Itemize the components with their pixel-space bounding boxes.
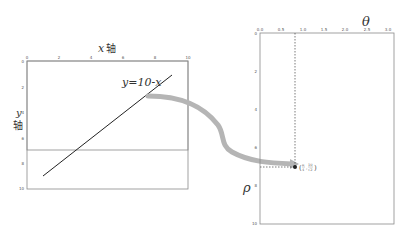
left-y-tick: 4 bbox=[21, 110, 24, 115]
left-y-tick: 10 bbox=[19, 186, 25, 191]
right-x-ticks: 0.0 0.5 1.0 1.5 2.0 2.5 3.0 bbox=[257, 27, 392, 32]
left-y-tick: 2 bbox=[21, 85, 24, 90]
point-label-rho-den: √2 bbox=[308, 168, 312, 172]
left-y-axis-var: y bbox=[15, 107, 22, 118]
right-y-ticks: 0 2 4 6 8 10 bbox=[252, 31, 258, 226]
left-y-tick: 8 bbox=[21, 161, 24, 166]
right-y-tick: 10 bbox=[252, 221, 258, 226]
right-x-tick: 2.0 bbox=[342, 27, 349, 32]
right-y-tick: 2 bbox=[254, 69, 257, 74]
right-x-tick: 3.0 bbox=[385, 27, 392, 32]
left-x-axis-cjk: 轴 bbox=[106, 42, 116, 54]
left-x-tick: 8 bbox=[154, 55, 157, 60]
left-x-tick: 4 bbox=[90, 55, 93, 60]
right-x-tick: 1.5 bbox=[321, 27, 328, 32]
right-x-tick: 1.0 bbox=[300, 27, 307, 32]
rho-axis-label: ρ bbox=[242, 180, 251, 195]
left-x-ticks: 0 2 4 6 8 10 bbox=[26, 55, 191, 60]
right-y-tick: 4 bbox=[254, 107, 257, 112]
left-x-tick: 2 bbox=[58, 55, 61, 60]
point-label-close-paren: ) bbox=[314, 164, 317, 172]
theta-axis-label: θ bbox=[362, 14, 370, 29]
left-x-tick: 6 bbox=[122, 55, 125, 60]
right-x-tick: 0.5 bbox=[278, 27, 285, 32]
right-plot: 0.0 0.5 1.0 1.5 2.0 2.5 3.0 0 2 4 6 8 10… bbox=[242, 14, 394, 226]
right-y-tick: 6 bbox=[254, 145, 257, 150]
left-x-tick: 10 bbox=[185, 55, 191, 60]
left-x-axis-var: x bbox=[98, 42, 105, 55]
left-y-tick: 6 bbox=[21, 136, 24, 141]
right-plot-frame bbox=[260, 33, 394, 224]
left-x-tick: 0 bbox=[26, 55, 29, 60]
point-label: ( π 4 , 10 √2 ) bbox=[299, 163, 317, 172]
point-label-theta-den: 4 bbox=[302, 168, 305, 172]
right-x-tick: 0.0 bbox=[257, 27, 264, 32]
left-y-axis-cjk: 轴 bbox=[13, 119, 23, 131]
mapped-point bbox=[293, 165, 297, 169]
left-y-tick: 0 bbox=[21, 59, 24, 64]
hough-transform-diagram: 0 2 4 6 8 10 0 2 4 6 8 10 x 轴 y 轴 y=10-x bbox=[0, 0, 409, 238]
right-y-tick: 8 bbox=[254, 183, 257, 188]
point-label-rho-num: 10 bbox=[308, 163, 312, 167]
point-label-theta-num: π bbox=[302, 163, 305, 167]
